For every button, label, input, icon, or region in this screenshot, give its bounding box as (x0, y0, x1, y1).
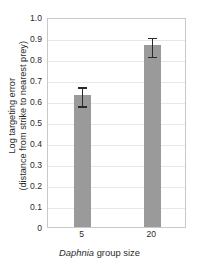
y-axis-tick-label: 0 (22, 224, 42, 233)
error-bar-cap-lower (78, 106, 87, 107)
gridline (48, 208, 185, 209)
x-axis-label-rest: group size (94, 247, 140, 258)
error-bar-cap-lower (148, 57, 157, 58)
y-axis-tick-label: 0.1 (22, 203, 42, 212)
y-axis-tick-label: 0.7 (22, 77, 42, 86)
x-axis-label: Daphnia group size (0, 248, 199, 257)
y-axis-tick-label: 0.9 (22, 35, 42, 44)
gridline (48, 40, 185, 41)
x-axis-tick-labels: 520 (47, 230, 186, 244)
plot-area (47, 18, 186, 228)
gridline (48, 61, 185, 62)
y-axis-tick-label: 0.2 (22, 182, 42, 191)
gridline (48, 145, 185, 146)
error-bar-cap-upper (78, 87, 87, 88)
y-axis-tick-label: 0.8 (22, 56, 42, 65)
y-axis-label-line1: Log targeting error (8, 78, 17, 154)
y-axis-tick-label: 0.5 (22, 119, 42, 128)
gridline (48, 124, 185, 125)
gridline (48, 187, 185, 188)
x-axis-tick-label: 20 (131, 230, 171, 239)
y-axis-tick-label: 0.3 (22, 161, 42, 170)
error-bar-line (152, 38, 153, 57)
gridline (48, 82, 185, 83)
bar (74, 95, 91, 227)
y-axis-tick-labels: 1.00.90.80.70.60.50.40.30.20.10 (18, 0, 42, 268)
x-axis-tick-label: 5 (62, 230, 102, 239)
error-bar-cap-upper (148, 38, 157, 39)
y-axis-tick-label: 1.0 (22, 14, 42, 23)
x-axis-label-genus: Daphnia (59, 247, 94, 258)
bar (144, 45, 161, 227)
error-bar-line (82, 87, 83, 106)
bar-chart-figure: Log targeting error (distance from strik… (0, 0, 199, 268)
gridline (48, 166, 185, 167)
gridline (48, 103, 185, 104)
y-axis-tick-label: 0.6 (22, 98, 42, 107)
y-axis-tick-label: 0.4 (22, 140, 42, 149)
